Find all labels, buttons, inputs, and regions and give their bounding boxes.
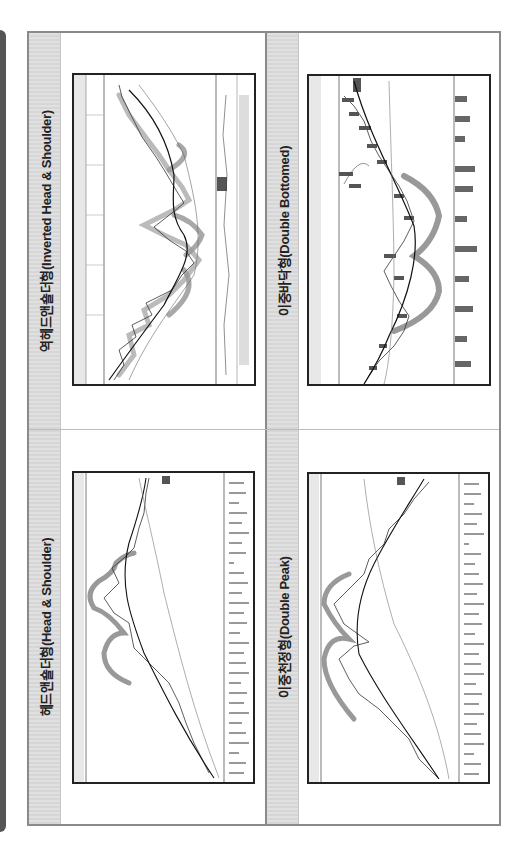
chart-pattern-table: 역헤드앤숄더형(Inverted Head & Shoulder) bbox=[27, 31, 501, 826]
chart-graphic bbox=[74, 75, 254, 384]
chart-graphic bbox=[309, 474, 488, 782]
cell-header: 역헤드앤숄더형(Inverted Head & Shoulder) bbox=[29, 33, 61, 429]
cell-header: 이중천정형(Double Peak) bbox=[267, 430, 299, 824]
chart-double-bottomed bbox=[307, 74, 491, 386]
chart-inverted-head-shoulder bbox=[72, 73, 256, 386]
cell-inverted-head-shoulder: 역헤드앤숄더형(Inverted Head & Shoulder) bbox=[29, 33, 265, 429]
cell-title: 헤드앤숄더형(Head & Shoulder) bbox=[35, 538, 54, 717]
chart-head-shoulder bbox=[72, 471, 255, 784]
cell-double-bottomed: 이중바닥형(Double Bottomed) bbox=[267, 33, 499, 429]
page-edge-tab bbox=[0, 30, 6, 832]
cell-header: 이중바닥형(Double Bottomed) bbox=[267, 33, 299, 429]
cell-header: 헤드앤숄더형(Head & Shoulder) bbox=[29, 430, 61, 824]
cell-title: 이중천정형(Double Peak) bbox=[273, 556, 292, 697]
chart-graphic bbox=[74, 473, 253, 782]
chart-double-peak bbox=[307, 472, 490, 784]
cell-title: 이중바닥형(Double Bottomed) bbox=[273, 146, 292, 316]
cell-head-shoulder: 헤드앤숄더형(Head & Shoulder) bbox=[29, 430, 265, 824]
cell-title: 역헤드앤숄더형(Inverted Head & Shoulder) bbox=[35, 110, 54, 352]
chart-graphic bbox=[309, 76, 489, 384]
cell-double-peak: 이중천정형(Double Peak) bbox=[267, 430, 499, 824]
